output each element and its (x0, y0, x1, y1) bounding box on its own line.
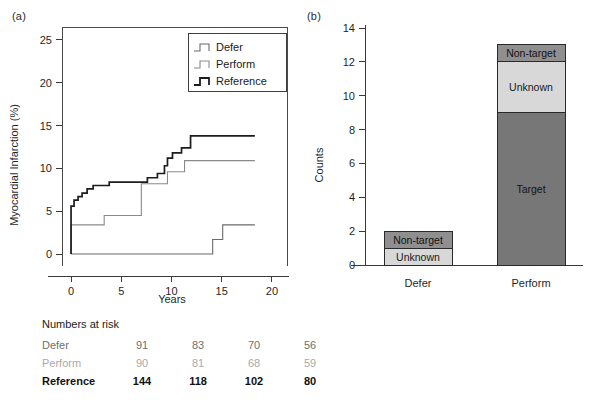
numbers-at-risk-row: Defer91837056 (42, 336, 338, 354)
numbers-at-risk-row: Perform90816859 (42, 354, 338, 372)
bar-segment-label-unknown: Unknown (396, 251, 440, 263)
panel-b-bars: UnknownNon-targetTargetUnknownNon-target (384, 45, 565, 265)
panel-b-chart: 02468101214 UnknownNon-targetTargetUnkno… (303, 0, 593, 310)
panel-a-legend: DeferPerformReference (188, 33, 286, 91)
panel-a-ytick-label: 25 (40, 34, 52, 46)
numbers-at-risk-value: 59 (282, 354, 338, 372)
panel-b-ytick-label: 14 (343, 22, 355, 34)
panel-b-ytick-label: 0 (349, 259, 355, 271)
panel-b-ytick-label: 6 (349, 157, 355, 169)
panel-a-xlabel: Years (158, 293, 186, 305)
panel-a-xtick-label: 5 (118, 285, 124, 297)
bar-segment-label-non-target: Non-target (393, 234, 443, 246)
panel-a-xtick-label: 0 (68, 285, 74, 297)
bar-segment-label-unknown: Unknown (509, 81, 553, 93)
numbers-at-risk-value: 56 (282, 336, 338, 354)
numbers-at-risk-row-label: Reference (42, 372, 114, 390)
panel-b-ytick-label: 12 (343, 56, 355, 68)
bar-segment-label-non-target: Non-target (506, 47, 556, 59)
panel-b-ytick-label: 4 (349, 191, 355, 203)
numbers-at-risk-value: 91 (114, 336, 170, 354)
numbers-at-risk-value: 83 (170, 336, 226, 354)
panel-a-ytick-label: 15 (40, 120, 52, 132)
numbers-at-risk-value: 118 (170, 372, 226, 390)
panel-a-ytick-label: 0 (46, 248, 52, 260)
numbers-at-risk-row-label: Defer (42, 336, 114, 354)
panel-a-curve-reference (71, 136, 255, 254)
panel-b-ylabel: Counts (313, 147, 325, 182)
panel-b-ytick-label: 8 (349, 124, 355, 136)
panel-a-curves (71, 136, 255, 254)
panel-a-ytick-label: 5 (46, 205, 52, 217)
panel-a-ytick-label: 10 (40, 162, 52, 174)
numbers-at-risk-value: 80 (282, 372, 338, 390)
numbers-at-risk-row: Reference14411810280 (42, 372, 338, 390)
numbers-at-risk-value: 144 (114, 372, 170, 390)
panel-a-xtick-label: 20 (266, 285, 278, 297)
panel-b-ytick-label: 10 (343, 90, 355, 102)
bar-segment-label-target: Target (516, 183, 545, 195)
panel-a-curve-perform (71, 161, 255, 254)
panel-b-ticks: 02468101214 (343, 22, 365, 271)
panel-a-ylabel: Myocardial Infarction (%) (8, 104, 20, 226)
legend-label-defer: Defer (216, 41, 243, 53)
numbers-at-risk-value: 81 (170, 354, 226, 372)
panel-a-xtick-label: 15 (216, 285, 228, 297)
numbers-at-risk-table: Defer91837056Perform90816859Reference144… (42, 336, 338, 390)
legend-label-perform: Perform (216, 58, 255, 70)
panel-b-category-defer: Defer (405, 277, 432, 289)
numbers-at-risk-value: 68 (226, 354, 282, 372)
numbers-at-risk-title: Numbers at risk (42, 318, 119, 330)
numbers-at-risk-value: 102 (226, 372, 282, 390)
numbers-at-risk-value: 70 (226, 336, 282, 354)
panel-a-chart: 051015202505101520 DeferPerformReference… (0, 0, 300, 310)
legend-label-reference: Reference (216, 75, 267, 87)
figure-root: (a) (b) 051015202505101520 DeferPerformR… (0, 0, 593, 400)
panel-b-category-perform: Perform (511, 277, 550, 289)
panel-a-curve-defer (71, 225, 255, 254)
numbers-at-risk-row-label: Perform (42, 354, 114, 372)
panel-a-ytick-label: 20 (40, 77, 52, 89)
panel-b-ytick-label: 2 (349, 225, 355, 237)
panel-b-category-labels: DeferPerform (405, 277, 551, 289)
numbers-at-risk-value: 90 (114, 354, 170, 372)
